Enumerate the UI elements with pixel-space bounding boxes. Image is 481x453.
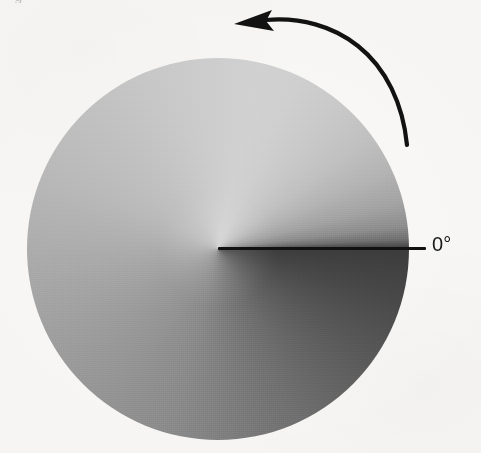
rotation-arrow-arc bbox=[266, 19, 407, 145]
zero-degree-axis-line bbox=[218, 247, 426, 250]
rotation-arrow-svg bbox=[190, 8, 420, 153]
zero-degree-axis-label: 0° bbox=[432, 234, 452, 254]
cut-off-glyph-from-previous-line: g bbox=[14, 0, 40, 3]
counter-clockwise-rotation-arrow bbox=[190, 8, 420, 153]
